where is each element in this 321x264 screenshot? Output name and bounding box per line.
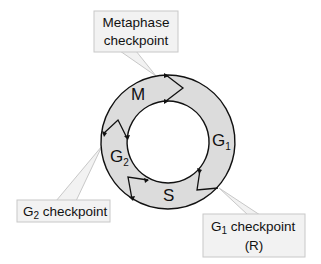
metaphase-callout-label-line2: checkpoint: [104, 33, 169, 48]
cell-cycle-diagram: M G1 S G2 Metaphase checkpoint G2 checkp…: [0, 0, 321, 264]
phase-label-m: M: [131, 85, 145, 104]
phase-label-s: S: [163, 186, 174, 205]
g2-callout-pointer: [56, 146, 102, 201]
g1-callout-pointer: [219, 188, 260, 215]
g1-callout-label-line2: (R): [245, 238, 264, 253]
metaphase-callout-label: Metaphase: [103, 15, 170, 30]
metaphase-callout-pointer: [120, 51, 156, 76]
